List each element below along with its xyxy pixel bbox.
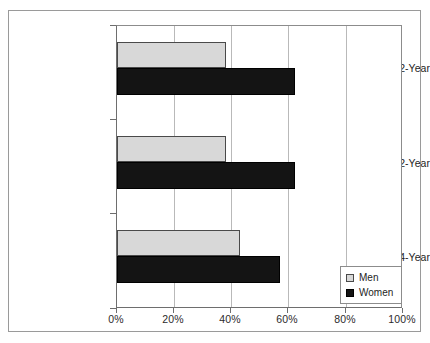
x-axis-label-100: 100% — [379, 313, 425, 325]
x-axis-label-80: 80% — [322, 313, 368, 325]
legend-label-men: Men — [359, 273, 378, 283]
bar-women-public-4-year — [117, 256, 280, 283]
x-axis-label-20: 20% — [150, 313, 196, 325]
legend-label-women: Women — [359, 288, 393, 298]
legend-swatch-women-icon — [346, 289, 354, 297]
x-axis-label-60: 60% — [264, 313, 310, 325]
bar-men-public-2-year — [117, 136, 226, 162]
bar-men-public-4-year — [117, 230, 240, 256]
x-axis-label-0: 0% — [93, 313, 139, 325]
bar-women-public-2-year — [117, 162, 295, 189]
legend-entry-men: Men — [346, 271, 401, 285]
gridline-80 — [346, 26, 347, 307]
bar-women-not-for-profit-2-year — [117, 68, 295, 95]
x-axis-label-40: 40% — [207, 313, 253, 325]
bar-men-not-for-profit-2-year — [117, 42, 226, 68]
legend-entry-women: Women — [346, 286, 401, 300]
legend-swatch-men-icon — [346, 274, 354, 282]
chart-figure: Not-for-Profit 2-Year Public 2-Year Publ… — [0, 0, 430, 343]
chart-legend: Men Women — [340, 266, 402, 304]
